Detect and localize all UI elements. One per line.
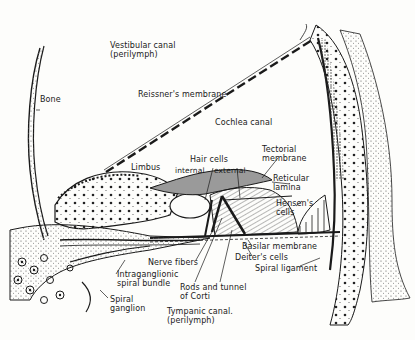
spiral-ligament-wall bbox=[310, 25, 410, 325]
label-basilar-membrane: Basilar membrane bbox=[242, 242, 317, 251]
label-hair-cells: Hair cells bbox=[190, 155, 228, 164]
label-vestibular-canal: Vestibular canal (perilymph) bbox=[110, 41, 176, 59]
inner-sulcus bbox=[170, 194, 210, 218]
label-reissners-membrane: Reissner's membrane bbox=[138, 90, 227, 99]
label-cochlea-canal: Cochlea canal bbox=[215, 118, 272, 127]
label-intraganglionic-spiral-bundle: Intraganglionic spiral bundle bbox=[117, 270, 178, 288]
label-nerve-fibers: Nerve fibers bbox=[148, 258, 198, 267]
bone-wall bbox=[28, 46, 48, 240]
label-limbus: Limbus bbox=[131, 163, 160, 172]
label-spiral-ganglion: Spiral ganglion bbox=[110, 295, 145, 313]
label-bone: Bone bbox=[40, 95, 61, 104]
label-reticular-lamina: Reticular lamina bbox=[273, 174, 309, 192]
label-external: external bbox=[214, 166, 246, 175]
cochlea-diagram: Vestibular canal (perilymph) Bone Reissn… bbox=[0, 0, 415, 340]
limbus bbox=[55, 172, 178, 229]
label-tectorial-membrane: Tectorial membrane bbox=[262, 145, 307, 163]
label-internal: internal bbox=[175, 166, 205, 175]
label-tympanic-canal: Tympanic canal. (perilymph) bbox=[167, 307, 233, 325]
label-hensens-cells: Hensen's cells bbox=[276, 199, 313, 217]
label-rods-and-tunnel-of-corti: Rods and tunnel of Corti bbox=[180, 283, 246, 301]
label-spiral-ligament: Spiral ligament bbox=[255, 264, 317, 273]
label-deiters-cells: Deiter's cells bbox=[235, 253, 288, 262]
